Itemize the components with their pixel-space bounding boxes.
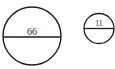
large-circle-label: 66 [27, 26, 37, 37]
large-circle-group: 66 [3, 7, 61, 65]
small-circle-group: 11 [84, 14, 114, 44]
small-circle-label: 11 [95, 19, 103, 28]
circles-diagram: 66 11 [0, 0, 115, 69]
